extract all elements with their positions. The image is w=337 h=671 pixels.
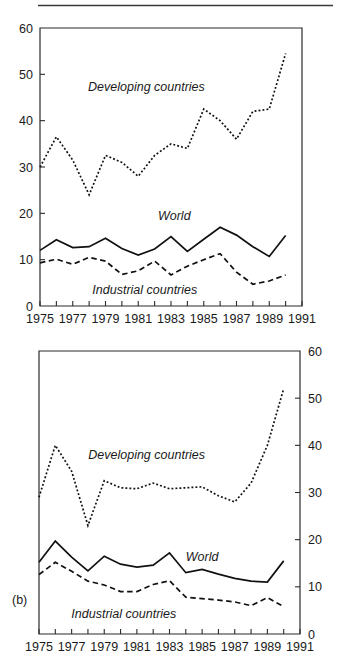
panel-b-series-annotations: Developing countriesWorldIndustrial coun… — [71, 448, 219, 620]
x-tick-label: 1985 — [188, 640, 216, 654]
series-line-industrial-countries — [39, 562, 284, 606]
y-tick-label: 20 — [308, 533, 322, 547]
series-label-developing-countries: Developing countries — [88, 448, 205, 462]
y-tick-label: 50 — [19, 68, 33, 82]
series-label-developing-countries: Developing countries — [88, 80, 205, 94]
x-tick-label: 1987 — [223, 312, 251, 326]
x-tick-label: 1975 — [26, 312, 54, 326]
panel-b-plot-frame — [39, 351, 300, 634]
panel-b-y-tick-labels: 0102030405060 — [308, 345, 322, 642]
x-tick-label: 1981 — [123, 640, 151, 654]
series-line-developing-countries — [40, 53, 286, 194]
y-tick-label: 60 — [308, 345, 322, 359]
x-tick-label: 1991 — [286, 640, 314, 654]
y-tick-label: 40 — [19, 114, 33, 128]
panel-a-y-tick-labels: 0102030405060 — [19, 22, 33, 314]
series-line-world — [39, 541, 284, 582]
y-tick-label: 30 — [19, 161, 33, 175]
series-label-world: World — [158, 209, 192, 223]
x-tick-label: 1979 — [90, 640, 118, 654]
panel-b-y-tick-marks — [295, 398, 300, 587]
panel-b-label: (b) — [12, 593, 27, 607]
y-tick-label: 20 — [19, 207, 33, 221]
x-tick-label: 1987 — [221, 640, 249, 654]
x-tick-label: 1979 — [92, 312, 120, 326]
y-tick-label: 10 — [308, 580, 322, 594]
x-tick-label: 1983 — [157, 312, 185, 326]
panel-a-series-annotations: Developing countriesWorldIndustrial coun… — [88, 80, 205, 297]
figure-container: 0102030405060 19751977197919811983198519… — [0, 0, 337, 671]
y-tick-label: 40 — [308, 439, 322, 453]
x-tick-label: 1977 — [59, 312, 87, 326]
panel-a: 0102030405060 19751977197919811983198519… — [19, 22, 316, 327]
panel-b-series-lines — [39, 389, 284, 607]
series-line-world — [40, 227, 286, 256]
panel-a-plot-frame — [40, 28, 302, 306]
x-tick-label: 1983 — [156, 640, 184, 654]
two-panel-line-chart: 0102030405060 19751977197919811983198519… — [0, 0, 337, 671]
y-tick-label: 10 — [19, 253, 33, 267]
y-tick-label: 30 — [308, 486, 322, 500]
x-tick-label: 1985 — [190, 312, 218, 326]
series-line-industrial-countries — [40, 254, 286, 285]
panel-b-x-tick-labels: 197519771979198119831985198719891991 — [25, 640, 314, 654]
x-tick-label: 1991 — [288, 312, 316, 326]
x-tick-label: 1989 — [255, 312, 283, 326]
panel-a-x-tick-labels: 197519771979198119831985198719891991 — [26, 312, 316, 326]
y-tick-label: 60 — [19, 22, 33, 36]
x-tick-label: 1975 — [25, 640, 53, 654]
x-tick-label: 1977 — [58, 640, 86, 654]
panel-b-x-tick-marks — [39, 629, 300, 634]
panel-a-x-tick-marks — [40, 301, 302, 306]
series-label-world: World — [186, 550, 220, 564]
x-tick-label: 1981 — [124, 312, 152, 326]
y-tick-label: 50 — [308, 392, 322, 406]
x-tick-label: 1989 — [253, 640, 281, 654]
series-label-industrial-countries: Industrial countries — [71, 607, 176, 621]
series-label-industrial-countries: Industrial countries — [92, 283, 197, 297]
panel-b: 0102030405060 19751977197919811983198519… — [12, 345, 322, 655]
